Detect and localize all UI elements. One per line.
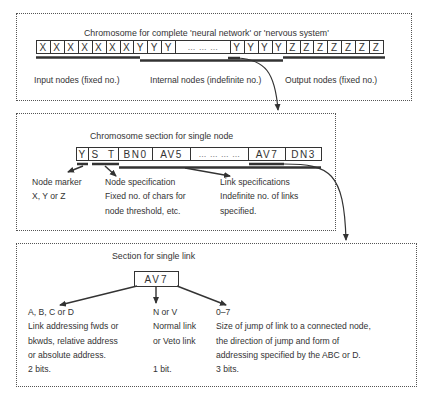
cell-z: Z	[370, 41, 383, 53]
cell-link-bn0: BN0	[119, 148, 153, 160]
link-code-box: AV7	[134, 271, 179, 287]
col-link-type: N or V Normal link or Veto link 1 bit.	[153, 305, 196, 376]
cell-node-spec: S T	[89, 148, 119, 160]
link-type-spacer	[153, 348, 196, 362]
node-chromosome-strip: Y S T BN0 AV5 … … … … AV7 DN3	[76, 147, 322, 161]
addressing-line4: or absolute address.	[28, 348, 118, 362]
link-type-line2: Normal link	[153, 319, 196, 333]
jump-line4: addressing specified by the ABC or D.	[216, 348, 371, 362]
jump-line3: the direction of jump and form of	[216, 334, 371, 348]
cell-z: Z	[301, 41, 315, 53]
cell-x: X	[79, 41, 93, 53]
panel3-title: Section for single link	[112, 251, 195, 261]
link-spec-line2: Indefinite no. of links	[220, 189, 298, 203]
label-internal-nodes: Internal nodes (indefinite no.)	[150, 73, 261, 87]
cell-x: X	[93, 41, 107, 53]
col-addressing: A, B, C or D Link addressing fwds or bkw…	[28, 305, 118, 376]
cell-y: Y	[148, 41, 162, 53]
cell-y: Y	[259, 41, 273, 53]
cell-link-av7: AV7	[249, 148, 286, 160]
cell-ellipsis: … … …	[176, 41, 231, 53]
link-spec-line1: Link specifications	[220, 175, 298, 189]
panel-full-chromosome	[16, 13, 412, 101]
cell-x: X	[37, 41, 51, 53]
cell-node-marker: Y	[77, 148, 89, 160]
cell-z: Z	[287, 41, 301, 53]
cell-x: X	[51, 41, 65, 53]
cell-y: Y	[134, 41, 148, 53]
cell-x: X	[121, 41, 135, 53]
cell-z: Z	[314, 41, 328, 53]
panel1-title: Chromosome for complete 'neural network'…	[84, 28, 329, 38]
cell-z: Z	[356, 41, 370, 53]
node-marker-line1: Node marker	[32, 175, 82, 189]
jump-line5: 3 bits.	[216, 362, 371, 376]
label-input-nodes: Input nodes (fixed no.)	[34, 73, 120, 87]
jump-line1: 0–7	[216, 305, 371, 319]
cell-x: X	[65, 41, 79, 53]
node-spec-desc: Node specification Fixed no. of chars fo…	[105, 175, 186, 218]
addressing-line3: bkwds, relative address	[28, 334, 118, 348]
addressing-line1: A, B, C or D	[28, 305, 118, 319]
link-spec-line3: specified.	[220, 204, 298, 218]
link-spec-desc: Link specifications Indefinite no. of li…	[220, 175, 298, 218]
col-jump-size: 0–7 Size of jump of link to a connected …	[216, 305, 371, 376]
node-marker-desc: Node marker X, Y or Z	[32, 175, 82, 204]
cell-z: Z	[342, 41, 356, 53]
node-spec-line2: Fixed no. of chars for	[105, 189, 186, 203]
link-type-line1: N or V	[153, 305, 196, 319]
cell-ellipsis: … … … …	[191, 148, 249, 160]
addressing-line2: Link addressing fwds or	[28, 319, 118, 333]
cell-x: X	[107, 41, 121, 53]
panel2-title: Chromosome section for single node	[90, 131, 233, 141]
link-type-line3: or Veto link	[153, 334, 196, 348]
cell-y: Y	[231, 41, 245, 53]
full-chromosome-strip: X X X X X X X Y Y Y … … … Y Y Y Y Z Z Z …	[36, 40, 384, 54]
cell-link-dn3: DN3	[286, 148, 321, 160]
link-type-line5: 1 bit.	[153, 362, 196, 376]
cell-y: Y	[162, 41, 176, 53]
node-spec-line1: Node specification	[105, 175, 186, 189]
jump-line2: Size of jump of link to a connected node…	[216, 319, 371, 333]
label-output-nodes: Output nodes (fixed no.)	[285, 73, 377, 87]
cell-z: Z	[328, 41, 342, 53]
cell-y: Y	[245, 41, 259, 53]
cell-link-av5: AV5	[153, 148, 191, 160]
cell-y: Y	[273, 41, 287, 53]
node-spec-line3: node threshold, etc.	[105, 204, 186, 218]
node-marker-line2: X, Y or Z	[32, 189, 82, 203]
addressing-line5: 2 bits.	[28, 362, 118, 376]
